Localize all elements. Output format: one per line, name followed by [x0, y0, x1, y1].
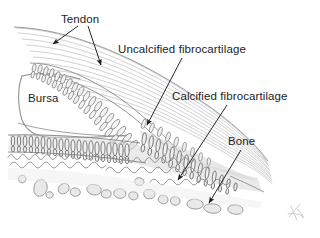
- label-tendon: Tendon: [61, 14, 99, 26]
- label-bone: Bone: [228, 136, 255, 148]
- diagram-canvas: [0, 0, 320, 238]
- enthesis-diagram: Tendon Uncalcified fibrocartilage Calcif…: [0, 0, 320, 238]
- label-uncalcified-fibrocartilage: Uncalcified fibrocartilage: [118, 44, 246, 56]
- label-calcified-fibrocartilage: Calcified fibrocartilage: [172, 91, 288, 103]
- label-bursa: Bursa: [28, 93, 59, 105]
